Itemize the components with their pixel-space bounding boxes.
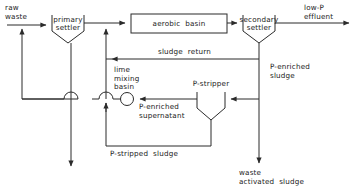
aerobic-basin-label: aerobic basin — [131, 20, 227, 29]
p-stripper-shape — [197, 92, 225, 120]
raw-waste-label: raw waste — [5, 4, 27, 21]
lime-mixing-basin-shape — [121, 93, 134, 106]
p-stripper-label: P-stripper — [185, 80, 237, 89]
secondary-settler-label: secondary settler — [238, 16, 280, 33]
process-flow-diagram: primary settler aerobic basin secondary … — [0, 0, 358, 195]
lime-mixing-basin-label: lime mixing basin — [114, 66, 148, 92]
p-enriched-supernatant-label: P-enriched supernatant — [139, 103, 185, 120]
waste-activated-sludge-label: waste activated sludge — [239, 169, 304, 186]
low-p-effluent-label: low-P effluent — [304, 4, 333, 21]
sludge-return-label: sludge return — [158, 48, 211, 57]
p-enriched-sludge-label: P-enriched sludge — [270, 63, 310, 80]
primary-settler-label: primary settler — [48, 16, 88, 33]
p-stripped-sludge-label: P-stripped sludge — [110, 150, 178, 159]
